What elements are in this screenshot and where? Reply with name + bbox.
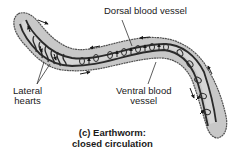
lateral-hearts-label-line2: hearts bbox=[13, 96, 42, 106]
figure-caption: (c) Earthworm: closed circulation bbox=[72, 127, 153, 149]
lateral-hearts-label: Lateral hearts bbox=[13, 86, 42, 106]
dorsal-blood-vessel-label: Dorsal blood vessel bbox=[104, 6, 187, 16]
ventral-blood-vessel-label: Ventral blood vessel bbox=[116, 86, 171, 106]
figure-caption-line2: closed circulation bbox=[72, 138, 153, 149]
ventral-blood-vessel-label-line2: vessel bbox=[116, 96, 171, 106]
figure-caption-line1: (c) Earthworm: bbox=[72, 127, 153, 138]
